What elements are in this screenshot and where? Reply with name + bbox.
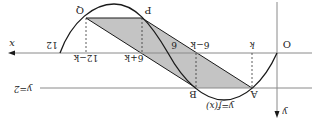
x-axis-arrow-icon xyxy=(8,51,15,56)
y-axis-arrow-icon xyxy=(275,111,280,118)
label-curve: y=f(x) xyxy=(205,101,235,111)
tick-12-minus-k: 12−k xyxy=(73,53,98,63)
tick-6-minus-k: 6−k xyxy=(190,40,209,50)
label-point-Q: Q xyxy=(76,5,84,16)
label-point-B: B xyxy=(189,89,196,100)
tick-6-plus-k: 6+k xyxy=(124,53,143,63)
tick-k: k xyxy=(249,40,254,50)
label-x-axis: x xyxy=(9,39,15,50)
diagram-canvas: O x y y=2 y=f(x) Q P B A 12 12−k 6+k 6 6… xyxy=(0,0,316,121)
tick-6: 6 xyxy=(171,40,177,50)
label-point-P: P xyxy=(144,5,151,16)
label-origin: O xyxy=(283,39,291,50)
label-y-axis: y xyxy=(282,107,289,117)
label-line: y=2 xyxy=(14,84,34,94)
tick-12: 12 xyxy=(46,40,57,50)
label-point-A: A xyxy=(250,89,259,100)
function-diagram: O x y y=2 y=f(x) Q P B A 12 12−k 6+k 6 6… xyxy=(0,0,316,121)
